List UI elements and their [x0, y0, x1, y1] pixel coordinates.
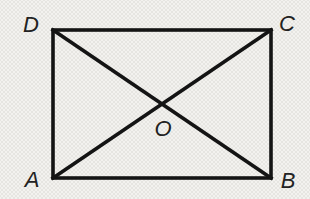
vertex-label-c: C [279, 13, 295, 35]
vertex-label-a: A [25, 169, 40, 191]
vertex-label-d: D [23, 14, 39, 36]
vertex-label-b: B [281, 170, 296, 192]
intersection-label-o: O [154, 118, 171, 140]
rectangle-with-diagonals-drawing [0, 0, 310, 199]
geometry-figure: D C A B O [0, 0, 310, 199]
